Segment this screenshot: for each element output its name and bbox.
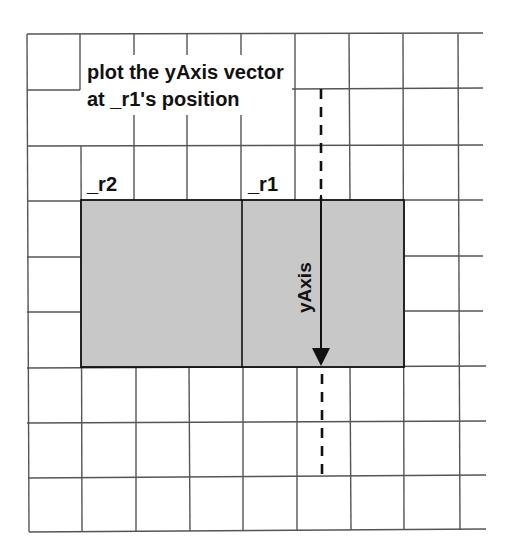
rectangle-r2-r1 (81, 200, 404, 367)
annotation-line2: at _r1's position (87, 88, 240, 110)
label-r1: _r1 (247, 173, 278, 195)
label-r2: _r2 (86, 173, 117, 195)
yaxis-label: yAxis (294, 262, 315, 313)
annotation-line1: plot the yAxis vector (87, 61, 284, 83)
diagram-canvas: plot the yAxis vector at _r1's position … (0, 0, 505, 557)
